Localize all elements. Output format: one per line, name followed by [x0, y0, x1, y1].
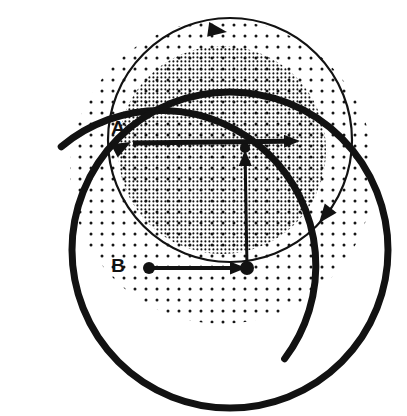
centre-dot [240, 143, 250, 153]
figure-canvas: A B [0, 0, 407, 416]
vertical-upward-arrow-to-center-shaft [245, 166, 247, 267]
point-label-b: B [111, 255, 125, 276]
figure-svg: A B [0, 0, 407, 416]
horizontal-velocity-arrow-at-a-shaft [133, 141, 284, 143]
point-label-a: A [111, 117, 125, 138]
dot-b-left [143, 262, 155, 274]
dot-b-right [240, 261, 254, 275]
